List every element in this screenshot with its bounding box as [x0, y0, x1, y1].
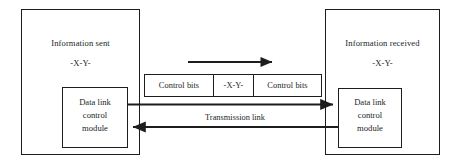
arrow-layer: [0, 0, 459, 165]
data-link-control-diagram: Information sent -X-Y- Data link control…: [0, 0, 459, 165]
